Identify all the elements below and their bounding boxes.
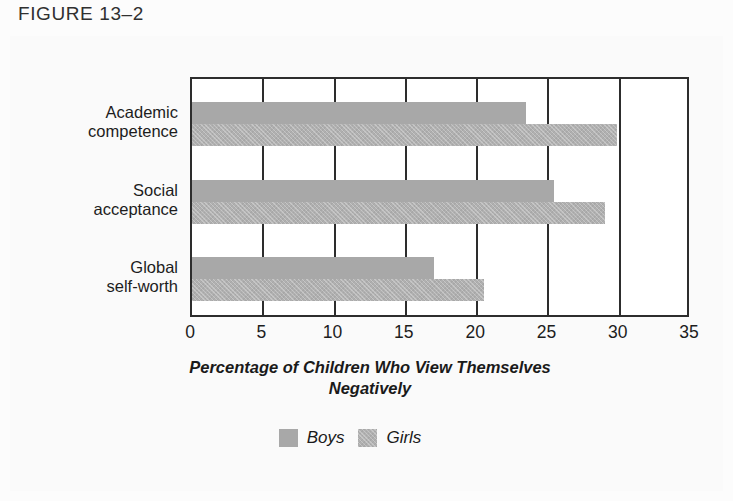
bar-boys [192,102,526,124]
bar-boys [192,180,554,202]
category-label: Globalself-worth [28,258,178,296]
category-label-line: Academic [28,103,178,122]
category-label-line: acceptance [28,200,178,219]
figure-container: FIGURE 13–2 AcademiccompetenceSocialacce… [0,0,733,501]
x-tick-label-15: 15 [384,322,424,343]
legend-label: Boys [307,428,345,448]
plot-area [190,77,689,317]
bar-girls [192,279,484,301]
legend-swatch-boys [279,429,298,447]
x-tick-label-5: 5 [241,322,281,343]
x-tick-label-10: 10 [313,322,353,343]
x-tick-label-30: 30 [598,322,638,343]
bar-girls [192,202,605,224]
chart-legend: BoysGirls [190,428,510,448]
legend-item-girls: Girls [358,428,421,448]
x-tick-label-0: 0 [170,322,210,343]
category-label-line: Global [28,258,178,277]
bar-group [192,102,687,146]
x-tick-label-20: 20 [455,322,495,343]
legend-swatch-girls [358,429,377,447]
category-label-line: Social [28,181,178,200]
category-label: Academiccompetence [28,103,178,141]
bar-group [192,180,687,224]
x-axis-caption: Percentage of Children Who View Themselv… [150,357,590,399]
bar-girls [192,124,617,146]
legend-label: Girls [386,428,421,448]
category-label-line: self-worth [28,277,178,296]
category-label: Socialacceptance [28,181,178,219]
category-label-line: competence [28,122,178,141]
figure-label: FIGURE 13–2 [18,3,144,25]
bar-boys [192,257,434,279]
bar-group [192,257,687,301]
legend-item-boys: Boys [279,428,345,448]
x-tick-label-25: 25 [526,322,566,343]
x-tick-label-35: 35 [669,322,709,343]
